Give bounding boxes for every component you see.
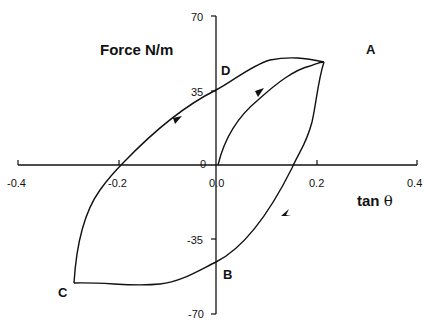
- point-label-d: D: [221, 63, 230, 78]
- point-label-c: C: [58, 285, 67, 300]
- y-tick-35: 35: [191, 86, 203, 98]
- arrow-unloading-icon: [281, 209, 291, 216]
- x-axis-label-text: tan: [357, 192, 384, 209]
- y-tick-neg35: -35: [187, 234, 203, 246]
- x-tick-0: 0.0: [209, 177, 224, 189]
- loading-curve: [218, 62, 324, 165]
- y-tick-0: 0: [200, 158, 206, 170]
- y-tick-neg70: -70: [188, 308, 204, 320]
- x-axis-label: tan θ: [357, 192, 393, 210]
- x-tick-neg02: -0.2: [108, 177, 127, 189]
- x-tick-02: 0.2: [309, 177, 324, 189]
- theta-symbol: θ: [384, 192, 393, 210]
- x-tick-04: 0.4: [407, 177, 422, 189]
- x-tick-neg04: -0.4: [7, 177, 26, 189]
- y-tick-70: 70: [191, 11, 203, 23]
- point-label-a: A: [366, 42, 375, 57]
- point-label-b: B: [223, 267, 232, 282]
- y-axis-label: Force N/m: [100, 41, 173, 58]
